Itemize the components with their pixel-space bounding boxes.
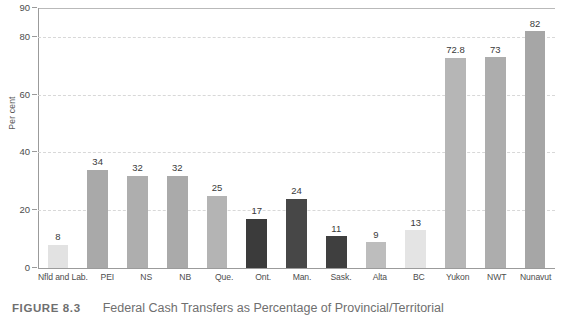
bar[interactable]	[326, 236, 347, 268]
bar-value-label: 24	[277, 186, 317, 196]
bar-value-label: 11	[316, 224, 356, 234]
y-axis-tick-label: 20	[19, 204, 30, 215]
bar-slot[interactable]: 8	[38, 8, 78, 268]
y-axis-tick-mark	[32, 94, 37, 95]
x-axis-tick-label: Sask.	[321, 272, 360, 282]
bar-chart: Per cent 02040608090 8343232251724119137…	[0, 0, 569, 292]
bar-value-label: 25	[197, 183, 237, 193]
bar[interactable]	[207, 196, 228, 268]
bar-value-label: 13	[396, 218, 436, 228]
y-axis-tick: 60	[2, 90, 30, 100]
y-axis-tick-mark	[32, 36, 37, 37]
bar-value-label: 32	[157, 163, 197, 173]
x-axis-tick-label: PEI	[88, 272, 127, 282]
bar-slot[interactable]: 24	[277, 8, 317, 268]
figure-caption-text: Federal Cash Transfers as Percentage of …	[103, 301, 444, 315]
y-axis-tick: 20	[2, 205, 30, 215]
y-axis-tick-mark	[32, 209, 37, 210]
y-axis-tick: 90	[2, 3, 30, 13]
figure-number: FIGURE 8.3	[12, 302, 81, 314]
bar-value-label: 9	[356, 230, 396, 240]
y-axis-tick: 0	[2, 263, 30, 273]
y-axis-tick-mark	[32, 267, 37, 268]
x-axis-tick-label: Ont.	[244, 272, 283, 282]
bar[interactable]	[405, 230, 426, 268]
bar-slot[interactable]: 11	[316, 8, 356, 268]
bar-value-label: 8	[38, 232, 78, 242]
x-axis-tick-label: Man.	[283, 272, 322, 282]
bar[interactable]	[485, 57, 506, 268]
bar-slot[interactable]: 73	[475, 8, 515, 268]
x-axis-tick-label: Nunavut	[516, 272, 555, 282]
bar-slot[interactable]: 32	[157, 8, 197, 268]
bar[interactable]	[525, 31, 546, 268]
bar-slot[interactable]: 82	[515, 8, 555, 268]
figure-container: Per cent 02040608090 8343232251724119137…	[0, 0, 569, 319]
bar-slot[interactable]: 32	[118, 8, 158, 268]
bar[interactable]	[445, 58, 466, 268]
bar-value-label: 32	[118, 163, 158, 173]
x-axis-tick-label: BC	[399, 272, 438, 282]
bar[interactable]	[127, 176, 148, 268]
bar-slot[interactable]: 9	[356, 8, 396, 268]
x-axis-tick-label: Alta	[360, 272, 399, 282]
bar-slot[interactable]: 72.8	[436, 8, 476, 268]
bar-value-label: 17	[237, 206, 277, 216]
x-axis-tick-label: Que.	[205, 272, 244, 282]
bar[interactable]	[286, 199, 307, 268]
y-axis-tick-label: 0	[25, 262, 30, 273]
y-axis-tick-label: 60	[19, 89, 30, 100]
x-axis-tick-label: Nfld and Lab.	[38, 272, 88, 282]
x-axis-tick-labels: Nfld and Lab.PEINSNBQue.Ont.Man.Sask.Alt…	[38, 272, 555, 282]
bar[interactable]	[366, 242, 387, 268]
x-axis-tick-label: NS	[127, 272, 166, 282]
bar[interactable]	[167, 176, 188, 268]
bar-value-label: 34	[78, 157, 118, 167]
bar-value-label: 73	[475, 45, 515, 55]
y-axis-tick-label: 90	[19, 2, 30, 13]
y-axis-tick: 80	[2, 32, 30, 42]
y-axis-tick-mark	[32, 151, 37, 152]
y-axis-tick-label: 80	[19, 31, 30, 42]
y-axis-tick-label: 40	[19, 146, 30, 157]
bar-slot[interactable]: 13	[396, 8, 436, 268]
bar-value-label: 72.8	[436, 45, 476, 55]
x-axis-line	[38, 268, 555, 269]
bar-slot[interactable]: 25	[197, 8, 237, 268]
bar[interactable]	[246, 219, 267, 268]
y-axis-tick-mark	[32, 7, 37, 8]
figure-caption: FIGURE 8.3 Federal Cash Transfers as Per…	[0, 296, 569, 319]
bar[interactable]	[48, 245, 69, 268]
bar-slot[interactable]: 34	[78, 8, 118, 268]
x-axis-tick-label: NWT	[477, 272, 516, 282]
bar-series: 83432322517241191372.87382	[38, 8, 555, 268]
bar[interactable]	[87, 170, 108, 268]
bar-value-label: 82	[515, 19, 555, 29]
bar-slot[interactable]: 17	[237, 8, 277, 268]
x-axis-tick-label: NB	[166, 272, 205, 282]
y-axis-tick: 40	[2, 147, 30, 157]
x-axis-tick-label: Yukon	[438, 272, 477, 282]
